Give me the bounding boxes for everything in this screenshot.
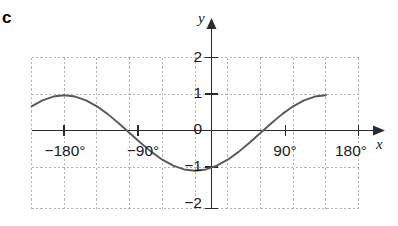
y-tick-label-2: 2 [186, 49, 202, 65]
y-axis-arrow [207, 18, 217, 29]
x-tick-label-neg180: −180° [30, 143, 100, 159]
x-axis [32, 126, 386, 136]
y-axis [207, 18, 217, 209]
cosine-graph-plot [0, 0, 398, 226]
x-axis-arrow [373, 126, 385, 136]
x-tick-label-180: 180° [320, 143, 382, 159]
y-tick-label-neg2: −2 [178, 195, 202, 211]
x-tick-label-90: 90° [260, 143, 310, 159]
y-tick-label-0: 0 [186, 121, 202, 137]
x-tick-label-neg90: −90° [113, 143, 173, 159]
y-tick-label-1: 1 [186, 85, 202, 101]
y-tick-label-neg1: −1 [178, 158, 202, 174]
graph-figure: c [0, 0, 398, 226]
y-axis-label: y [198, 11, 205, 26]
part-label: c [2, 9, 11, 27]
